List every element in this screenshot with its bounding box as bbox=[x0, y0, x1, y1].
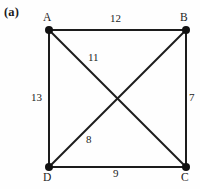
edge-weight-d-c: 9 bbox=[113, 168, 119, 179]
edge-weight-a-d: 13 bbox=[31, 92, 42, 103]
weighted-graph-diagram bbox=[0, 0, 200, 189]
vertex-label-d: D bbox=[43, 172, 51, 184]
edge-weight-a-c: 11 bbox=[88, 52, 99, 63]
vertex-label-a: A bbox=[43, 12, 51, 24]
figure-panel: (a) A B C D 12 13 7 9 11 8 bbox=[0, 0, 200, 189]
vertex-label-b: B bbox=[180, 12, 188, 24]
vertex-dot-d bbox=[45, 163, 53, 171]
edge-weight-a-b: 12 bbox=[110, 13, 121, 24]
vertex-dot-a bbox=[45, 26, 53, 34]
vertex-label-c: C bbox=[181, 172, 189, 184]
edge-weight-d-b: 8 bbox=[86, 134, 92, 145]
vertex-dot-b bbox=[182, 26, 190, 34]
vertex-dot-c bbox=[182, 163, 190, 171]
edge-weight-b-c: 7 bbox=[189, 92, 195, 103]
